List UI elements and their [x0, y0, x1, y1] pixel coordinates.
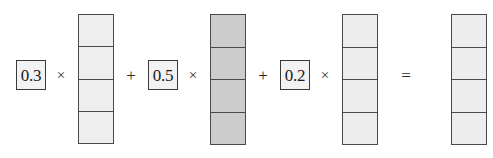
vector-2-cell-2 [211, 47, 245, 80]
vector-1 [78, 14, 114, 144]
vector-2-cell-4 [211, 112, 245, 145]
vector-3-cell-4 [343, 112, 377, 145]
vector-1-cell-3 [79, 79, 113, 111]
vector-1-cell-2 [79, 46, 113, 78]
vector-2-cell-1 [211, 15, 245, 47]
vector-2-cell-3 [211, 79, 245, 112]
equation-canvas: 0.3 × + 0.5 × + 0.2 × = [0, 0, 493, 158]
plus-operator-1: + [122, 64, 140, 86]
result-vector-cell-1 [452, 15, 486, 47]
coefficient-box-3: 0.2 [280, 60, 310, 90]
result-vector-cell-3 [452, 79, 486, 112]
vector-3-cell-3 [343, 79, 377, 112]
coefficient-value-1: 0.3 [21, 66, 42, 83]
vector-3-cell-2 [343, 47, 377, 80]
multiply-operator-2: × [184, 64, 202, 86]
multiply-operator-1: × [52, 64, 70, 86]
vector-1-cell-4 [79, 111, 113, 143]
coefficient-box-1: 0.3 [16, 60, 46, 90]
vector-1-cell-1 [79, 15, 113, 46]
plus-operator-2: + [254, 64, 272, 86]
coefficient-value-3: 0.2 [285, 66, 306, 83]
vector-3 [342, 14, 378, 145]
multiply-operator-3: × [316, 64, 334, 86]
result-vector [451, 14, 487, 145]
coefficient-box-2: 0.5 [148, 60, 178, 90]
coefficient-value-2: 0.5 [153, 66, 174, 83]
result-vector-cell-4 [452, 112, 486, 145]
vector-3-cell-1 [343, 15, 377, 47]
result-vector-cell-2 [452, 47, 486, 80]
vector-2 [210, 14, 246, 145]
equals-operator: = [396, 64, 416, 86]
